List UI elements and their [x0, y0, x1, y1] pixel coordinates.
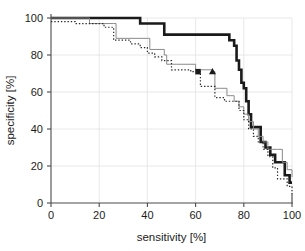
y-tick-label: 100 — [25, 12, 43, 24]
y-tick-label: 0 — [37, 197, 43, 209]
roc-chart-figure: 020406080100 020406080100 sensitivity [%… — [0, 0, 305, 251]
roc-chart-svg: 020406080100 020406080100 sensitivity [%… — [0, 0, 305, 251]
y-tick-label: 40 — [31, 123, 43, 135]
y-tick-label: 60 — [31, 86, 43, 98]
square-operating-point — [195, 69, 201, 75]
x-tick-label: 100 — [283, 209, 301, 221]
x-tick-label: 0 — [48, 209, 54, 221]
x-axis-title: sensitivity [%] — [137, 231, 207, 243]
x-tick-label: 20 — [93, 209, 105, 221]
x-tick-label: 60 — [189, 209, 201, 221]
y-axis-title: specificity [%] — [4, 76, 16, 146]
y-tick-label: 80 — [31, 49, 43, 61]
y-tick-label: 20 — [31, 160, 43, 172]
x-tick-label: 40 — [141, 209, 153, 221]
x-tick-label: 80 — [238, 209, 250, 221]
